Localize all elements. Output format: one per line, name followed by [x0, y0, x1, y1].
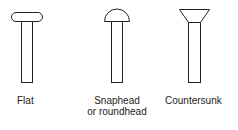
snaphead-label: Snaphead [92, 95, 142, 106]
flat-label: Flat [17, 95, 34, 106]
snaphead-rivet-drawing [105, 9, 130, 83]
snaphead-label-line2: or roundhead [83, 106, 151, 117]
flat-rivet-drawing [12, 13, 43, 83]
countersunk-rivet-drawing [180, 10, 210, 83]
countersunk-label: Countersunk [165, 95, 222, 106]
